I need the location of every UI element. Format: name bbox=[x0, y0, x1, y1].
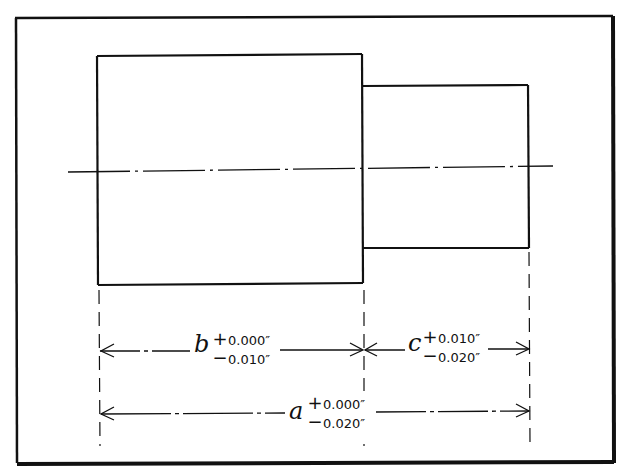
tolerance-a: +0.000″ −0.020″ bbox=[307, 394, 365, 432]
tolerance-b: +0.000″ −0.010″ bbox=[212, 330, 270, 368]
minus-sign: − bbox=[307, 413, 323, 430]
minus-sign: − bbox=[212, 349, 228, 366]
lower-tolerance: 0.010″ bbox=[228, 352, 270, 367]
dimension-label-a: a +0.000″ −0.020″ bbox=[287, 391, 375, 437]
plus-sign: + bbox=[422, 328, 438, 345]
tolerance-c: +0.010″ −0.020″ bbox=[422, 328, 480, 366]
lower-tolerance: 0.020″ bbox=[438, 350, 480, 365]
center-line bbox=[68, 166, 553, 172]
plus-sign: + bbox=[212, 330, 228, 347]
minus-sign: − bbox=[422, 347, 438, 364]
upper-tolerance: 0.010″ bbox=[438, 331, 480, 346]
variable-a: a bbox=[289, 397, 303, 425]
variable-c: c bbox=[408, 329, 421, 357]
plus-sign: + bbox=[307, 394, 323, 411]
dimension-label-b: b +0.000″ −0.010″ bbox=[192, 326, 280, 372]
upper-tolerance: 0.000″ bbox=[323, 397, 365, 412]
upper-tolerance: 0.000″ bbox=[228, 333, 270, 348]
lower-tolerance: 0.020″ bbox=[323, 416, 365, 431]
dimension-label-c: c +0.010″ −0.020″ bbox=[406, 325, 488, 371]
variable-b: b bbox=[194, 330, 209, 358]
